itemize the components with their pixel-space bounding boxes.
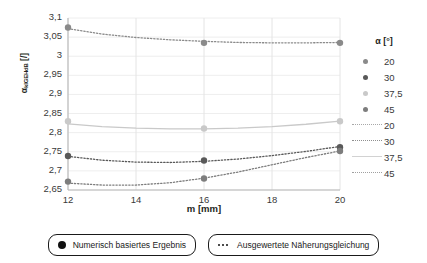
y-tick-label: 2,95	[28, 68, 62, 79]
legend-capsule-numeric: Numerisch basiertes Ergebnis	[48, 234, 196, 256]
y-tick-label: 2,75	[28, 145, 62, 156]
legend-capsule-approximation-label: Ausgewertete Näherungsgleichung	[237, 240, 369, 250]
legend-line-group: 203037,545	[352, 117, 427, 181]
legend-marker-icon	[352, 54, 382, 68]
data-point-30	[201, 157, 207, 163]
data-point-20	[65, 24, 71, 30]
data-point-20	[337, 40, 343, 46]
x-tick-label: 12	[53, 194, 83, 205]
dotted-line-icon	[352, 166, 382, 180]
legend-capsule-numeric-label: Numerisch basiertes Ergebnis	[73, 240, 186, 250]
legend-line-label: 30	[382, 136, 395, 147]
legend-line-row[interactable]: 30	[352, 133, 427, 149]
legend-marker-row[interactable]: 30	[352, 69, 427, 85]
data-point-37-5	[65, 118, 71, 124]
data-point-37-5	[337, 118, 343, 124]
legend-line-row[interactable]: 45	[352, 165, 427, 181]
legend-marker-icon	[352, 102, 382, 116]
chart-plot-area: αkIGEHdB [/] m [mm] 2,652,72,752,82,852,…	[0, 0, 427, 222]
y-tick-label: 3,05	[28, 30, 62, 41]
y-tick-label: 2,85	[28, 107, 62, 118]
legend-marker-icon	[352, 70, 382, 84]
y-tick-label: 3,1	[28, 11, 62, 22]
legend-marker-row[interactable]: 20	[352, 53, 427, 69]
y-tick-label: 2,65	[28, 183, 62, 194]
y-tick-label: 2,7	[28, 164, 62, 175]
legend-line-row[interactable]: 20	[352, 117, 427, 133]
dotted-line-icon	[352, 134, 382, 148]
dotted-line-icon	[352, 118, 382, 132]
data-point-30	[65, 153, 71, 159]
x-tick-label: 18	[257, 194, 287, 205]
legend-marker-icon	[352, 86, 382, 100]
legend-marker-row[interactable]: 37,5	[352, 85, 427, 101]
y-tick-label: 3	[28, 49, 62, 60]
legend-title: α [°]	[356, 36, 412, 46]
legend-line-label: 37,5	[382, 152, 403, 163]
x-tick-label: 14	[121, 194, 151, 205]
x-tick-label: 16	[189, 194, 219, 205]
dotted-line-icon	[218, 241, 230, 249]
legend-line-label: 20	[382, 120, 395, 131]
data-point-45	[65, 178, 71, 184]
data-point-20	[201, 40, 207, 46]
y-tick-label: 2,8	[28, 126, 62, 137]
series-legend: α [°] 203037,545 203037,545	[352, 36, 427, 181]
legend-line-row[interactable]: 37,5	[352, 149, 427, 165]
y-tick-label: 2,9	[28, 87, 62, 98]
legend-marker-label: 45	[382, 104, 395, 115]
x-tick-label: 20	[325, 194, 355, 205]
data-point-45	[201, 175, 207, 181]
legend-marker-row[interactable]: 45	[352, 101, 427, 117]
legend-marker-label: 20	[382, 56, 395, 67]
legend-marker-label: 30	[382, 72, 395, 83]
legend-marker-group: 203037,545	[352, 53, 427, 117]
data-point-45	[337, 148, 343, 154]
filled-circle-icon	[58, 241, 66, 249]
legend-capsule-approximation: Ausgewertete Näherungsgleichung	[208, 234, 379, 256]
legend-marker-label: 37,5	[382, 88, 403, 99]
data-point-37-5	[201, 125, 207, 131]
bottom-legend: Numerisch basiertes Ergebnis Ausgewertet…	[0, 228, 427, 262]
legend-line-label: 45	[382, 168, 395, 179]
solid-line-icon	[352, 150, 382, 164]
figure-container: αkIGEHdB [/] m [mm] 2,652,72,752,82,852,…	[0, 0, 427, 263]
